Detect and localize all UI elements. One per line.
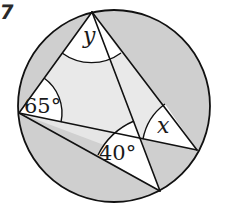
angle-label-x: x <box>157 113 170 138</box>
angle-label-40: 40° <box>99 141 136 165</box>
circle-angle-diagram: y 65° 40° x <box>0 0 230 211</box>
angle-label-y: y <box>82 23 96 48</box>
angle-label-65: 65° <box>24 94 61 118</box>
